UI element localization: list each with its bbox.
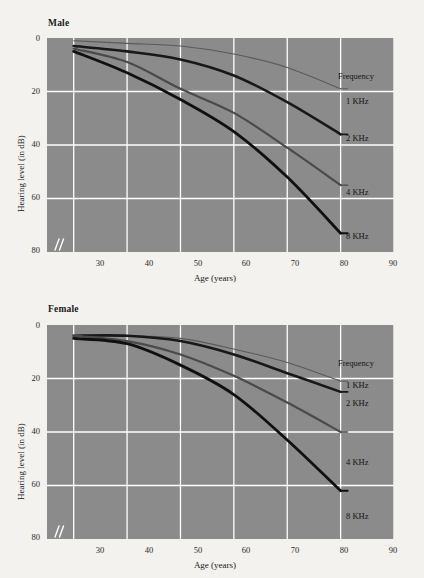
chart-panel-male: Male Hearing level (in dB) 0 20 40 60 80… — [0, 0, 424, 290]
y-tick-female-80: 80 — [18, 532, 40, 542]
legend-title-female: Frequency — [338, 358, 374, 368]
x-tick-male-90: 90 — [381, 258, 405, 268]
x-tick-male-40: 40 — [137, 258, 161, 268]
legend-item-female-1khz: 1 KHz — [346, 380, 368, 390]
legend-item-female-4khz: 4 KHz — [346, 457, 368, 467]
y-tick-female-60: 60 — [18, 479, 40, 489]
y-tick-male-60: 60 — [18, 192, 40, 202]
x-tick-male-70: 70 — [283, 258, 307, 268]
y-tick-female-0: 0 — [18, 320, 40, 330]
x-tick-female-90: 90 — [381, 545, 405, 555]
y-tick-female-20: 20 — [18, 373, 40, 383]
x-tick-male-30: 30 — [88, 258, 112, 268]
legend-title-male: Frequency — [338, 71, 374, 81]
figure-page: Male Hearing level (in dB) 0 20 40 60 80… — [0, 0, 424, 578]
legend-item-male-1khz: 1 KHz — [346, 96, 368, 106]
x-tick-male-60: 60 — [234, 258, 258, 268]
y-tick-female-40: 40 — [18, 426, 40, 436]
legend-item-male-4khz: 4 KHz — [346, 187, 368, 197]
x-tick-female-30: 30 — [88, 545, 112, 555]
panel-title-female: Female — [48, 304, 79, 314]
x-tick-male-80: 80 — [332, 258, 356, 268]
x-tick-female-70: 70 — [283, 545, 307, 555]
y-tick-male-20: 20 — [18, 86, 40, 96]
legend-item-female-2khz: 2 KHz — [346, 398, 368, 408]
y-tick-male-40: 40 — [18, 139, 40, 149]
x-tick-female-50: 50 — [186, 545, 210, 555]
x-tick-female-60: 60 — [234, 545, 258, 555]
panel-title-male: Male — [48, 18, 69, 28]
x-axis-label-female: Age (years) — [145, 560, 285, 570]
y-tick-male-80: 80 — [18, 245, 40, 255]
x-tick-male-50: 50 — [186, 258, 210, 268]
legend-item-female-8khz: 8 KHz — [346, 511, 368, 521]
x-tick-female-40: 40 — [137, 545, 161, 555]
x-axis-label-male: Age (years) — [145, 273, 285, 283]
legend-item-male-2khz: 2 KHz — [346, 133, 368, 143]
y-tick-male-0: 0 — [18, 33, 40, 43]
chart-panel-female: Female Hearing level (in dB) 0 20 40 60 … — [0, 286, 424, 578]
x-tick-female-80: 80 — [332, 545, 356, 555]
legend-item-male-8khz: 8 KHz — [346, 231, 368, 241]
